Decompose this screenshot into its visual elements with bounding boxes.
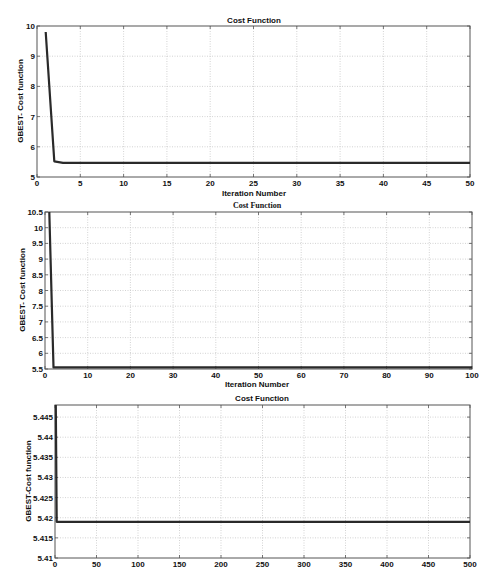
x-tick-label: 150 xyxy=(173,560,187,569)
y-tick-label: 8.5 xyxy=(32,271,44,280)
y-tick-label: 7 xyxy=(31,113,36,122)
y-tick-label: 5.42 xyxy=(37,514,53,523)
y-tick-label: 9 xyxy=(31,52,36,61)
x-tick-label: 450 xyxy=(422,560,436,569)
chart2-title: Cost Function xyxy=(233,201,282,210)
chart3-y-axis-label: GBEST-Cost function xyxy=(24,440,33,521)
y-tick-label: 10 xyxy=(26,22,35,31)
x-tick-label: 200 xyxy=(214,560,228,569)
y-tick-label: 7 xyxy=(39,318,44,327)
x-tick-label: 400 xyxy=(380,560,394,569)
y-tick-label: 5.43 xyxy=(37,473,53,482)
x-tick-label: 50 xyxy=(254,371,263,380)
y-tick-label: 7.5 xyxy=(32,302,44,311)
x-tick-label: 10 xyxy=(83,371,92,380)
x-tick-label: 30 xyxy=(292,179,301,188)
x-tick-label: 5 xyxy=(78,179,83,188)
x-tick-label: 30 xyxy=(169,371,178,380)
x-tick-label: 40 xyxy=(211,371,220,380)
y-tick-label: 10 xyxy=(34,224,43,233)
x-tick-label: 70 xyxy=(339,371,348,380)
x-tick-label: 20 xyxy=(206,179,215,188)
x-tick-label: 45 xyxy=(422,179,431,188)
x-tick-label: 0 xyxy=(43,371,48,380)
x-tick-label: 80 xyxy=(382,371,391,380)
chart3-title: Cost Function xyxy=(235,394,289,403)
y-tick-label: 5.435 xyxy=(33,453,54,462)
x-tick-label: 25 xyxy=(249,179,258,188)
x-tick-label: 60 xyxy=(297,371,306,380)
x-tick-label: 10 xyxy=(119,179,128,188)
x-tick-label: 40 xyxy=(379,179,388,188)
y-tick-label: 5.425 xyxy=(33,494,54,503)
y-tick-label: 6 xyxy=(39,349,44,358)
chart1-y-axis-label: GBEST- Cost function xyxy=(16,59,25,143)
chart2-x-axis-label: Iteration Number xyxy=(225,380,289,389)
x-tick-label: 0 xyxy=(35,179,40,188)
x-tick-label: 100 xyxy=(465,371,479,380)
chart-cost-function-100-iterations: 01020304050607080901005.566.577.588.599.… xyxy=(27,208,479,380)
x-tick-label: 300 xyxy=(297,560,311,569)
y-tick-label: 9.5 xyxy=(32,239,44,248)
y-tick-label: 10.5 xyxy=(27,208,43,217)
x-tick-label: 250 xyxy=(256,560,270,569)
chart2-y-axis-label: GBEST- Cost function xyxy=(18,248,27,332)
chart-cost-function-500-iterations: 0501001502002503003504004505005.415.4155… xyxy=(33,405,477,569)
y-tick-label: 9 xyxy=(39,255,44,264)
x-tick-label: 50 xyxy=(466,179,475,188)
y-tick-label: 5.41 xyxy=(37,554,53,563)
y-tick-label: 8 xyxy=(31,82,36,91)
figure-canvas: 051015202530354045505678910 010203040506… xyxy=(0,0,493,578)
chart-cost-function-50-iterations: 051015202530354045505678910 xyxy=(26,22,475,188)
y-tick-label: 5.415 xyxy=(33,534,54,543)
chart1-title: Cost Function xyxy=(227,16,281,25)
x-tick-label: 350 xyxy=(339,560,353,569)
x-tick-label: 500 xyxy=(463,560,477,569)
x-tick-label: 15 xyxy=(162,179,171,188)
x-tick-label: 20 xyxy=(126,371,135,380)
y-tick-label: 5.5 xyxy=(32,365,44,374)
x-tick-label: 35 xyxy=(336,179,345,188)
y-tick-label: 6.5 xyxy=(32,334,44,343)
y-tick-label: 5.44 xyxy=(37,433,53,442)
y-tick-label: 8 xyxy=(39,287,44,296)
x-tick-label: 50 xyxy=(92,560,101,569)
y-tick-label: 5.445 xyxy=(33,413,54,422)
x-tick-label: 90 xyxy=(425,371,434,380)
y-tick-label: 5 xyxy=(31,173,36,182)
x-tick-label: 100 xyxy=(131,560,145,569)
y-tick-label: 6 xyxy=(31,143,36,152)
x-tick-label: 0 xyxy=(53,560,58,569)
chart1-x-axis-label: Iteration Number xyxy=(222,189,286,198)
